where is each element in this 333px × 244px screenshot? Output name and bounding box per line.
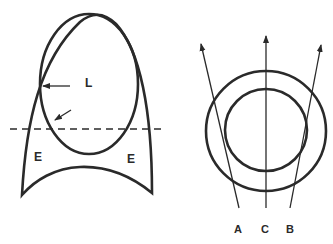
label-region-right: E: [127, 152, 135, 166]
ray-b: [290, 45, 321, 208]
label-ray-a: A: [234, 223, 242, 235]
arrow-diagonal: [55, 110, 71, 120]
label-lumen: L: [85, 76, 92, 90]
label-region-left: E: [34, 150, 42, 164]
diagram: L E E A C B: [0, 0, 333, 244]
left-figure: L E E: [10, 14, 163, 195]
label-ray-c: C: [261, 223, 269, 235]
right-figure: A C B: [201, 36, 326, 235]
label-ray-b: B: [286, 223, 294, 235]
